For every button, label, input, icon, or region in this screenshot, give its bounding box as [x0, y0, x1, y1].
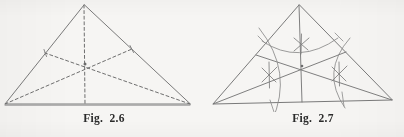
bisector-cross-mark-top	[294, 34, 309, 54]
figure-2-7-caption: Fig. 2.7	[202, 112, 404, 124]
triangle-outline	[5, 5, 190, 104]
median-from-apex	[299, 5, 302, 102]
arc-intersection-tick-base-left	[270, 100, 274, 112]
figure-2-6-caption: Fig. 2.6	[0, 112, 202, 124]
figure-page: Fig. 2.6	[0, 0, 404, 137]
arc-intersection-tick-right	[335, 33, 343, 41]
median-from-left-vertex	[5, 49, 132, 104]
median-from-right-vertex	[256, 55, 392, 100]
figure-2-7-drawing	[202, 0, 404, 112]
centroid-point	[301, 65, 304, 68]
triangle-outline	[213, 5, 392, 104]
median-from-apex	[84, 5, 85, 104]
figure-2-6-drawing	[0, 0, 202, 112]
figure-2-7-panel: Fig. 2.7	[202, 0, 404, 137]
figure-2-6-panel: Fig. 2.6	[0, 0, 202, 137]
centroid-point	[84, 63, 87, 66]
median-from-right-vertex	[45, 53, 190, 104]
arc-intersection-tick-left	[258, 36, 266, 44]
compass-arc-from-right-vertex	[334, 38, 350, 108]
